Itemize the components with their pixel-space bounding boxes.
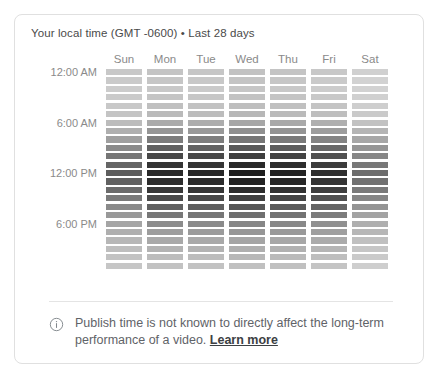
heatmap-cell[interactable] [147, 77, 183, 83]
heatmap-cell[interactable] [311, 94, 347, 100]
heatmap-cell[interactable] [352, 263, 388, 269]
heatmap-cell[interactable] [270, 136, 306, 142]
heatmap-cell[interactable] [270, 178, 306, 184]
heatmap-cell[interactable] [311, 212, 347, 218]
heatmap-cell[interactable] [352, 170, 388, 176]
heatmap-cell[interactable] [311, 69, 347, 75]
heatmap-cell[interactable] [147, 195, 183, 201]
heatmap-cell[interactable] [270, 170, 306, 176]
heatmap-cell[interactable] [270, 77, 306, 83]
heatmap-cell[interactable] [188, 136, 224, 142]
heatmap-cell[interactable] [106, 128, 142, 134]
heatmap-cell[interactable] [270, 94, 306, 100]
heatmap-cell[interactable] [229, 187, 265, 193]
heatmap-cell[interactable] [147, 145, 183, 151]
heatmap-cell[interactable] [229, 212, 265, 218]
heatmap-cell[interactable] [188, 204, 224, 210]
heatmap-cell[interactable] [352, 187, 388, 193]
heatmap-cell[interactable] [147, 246, 183, 252]
heatmap-cell[interactable] [106, 77, 142, 83]
heatmap-cell[interactable] [270, 162, 306, 168]
heatmap-cell[interactable] [106, 178, 142, 184]
heatmap-cell[interactable] [106, 120, 142, 126]
heatmap-cell[interactable] [106, 69, 142, 75]
heatmap-cell[interactable] [352, 86, 388, 92]
heatmap-cell[interactable] [270, 204, 306, 210]
heatmap-cell[interactable] [188, 254, 224, 260]
heatmap-cell[interactable] [311, 221, 347, 227]
heatmap-cell[interactable] [352, 229, 388, 235]
heatmap-cell[interactable] [352, 153, 388, 159]
heatmap-cell[interactable] [352, 145, 388, 151]
heatmap-cell[interactable] [352, 162, 388, 168]
heatmap-cell[interactable] [106, 237, 142, 243]
heatmap-cell[interactable] [147, 111, 183, 117]
heatmap-cell[interactable] [188, 128, 224, 134]
heatmap-cell[interactable] [352, 246, 388, 252]
heatmap-cell[interactable] [188, 195, 224, 201]
heatmap-cell[interactable] [106, 212, 142, 218]
heatmap-cell[interactable] [311, 204, 347, 210]
heatmap-cell[interactable] [270, 212, 306, 218]
heatmap-cell[interactable] [311, 254, 347, 260]
heatmap-cell[interactable] [352, 204, 388, 210]
heatmap-cell[interactable] [229, 69, 265, 75]
heatmap-cell[interactable] [311, 128, 347, 134]
heatmap-cell[interactable] [270, 246, 306, 252]
heatmap-cell[interactable] [352, 120, 388, 126]
heatmap-cell[interactable] [270, 86, 306, 92]
heatmap-cell[interactable] [106, 187, 142, 193]
heatmap-cell[interactable] [270, 111, 306, 117]
heatmap-cell[interactable] [106, 111, 142, 117]
heatmap-cell[interactable] [106, 145, 142, 151]
heatmap-cell[interactable] [270, 103, 306, 109]
heatmap-cell[interactable] [147, 229, 183, 235]
heatmap-cell[interactable] [270, 69, 306, 75]
heatmap-cell[interactable] [188, 120, 224, 126]
heatmap-cell[interactable] [147, 187, 183, 193]
heatmap-cell[interactable] [106, 204, 142, 210]
heatmap-cell[interactable] [311, 246, 347, 252]
heatmap-cell[interactable] [229, 170, 265, 176]
heatmap-cell[interactable] [229, 263, 265, 269]
heatmap-cell[interactable] [229, 103, 265, 109]
heatmap-cell[interactable] [352, 77, 388, 83]
heatmap-cell[interactable] [229, 94, 265, 100]
heatmap-cell[interactable] [352, 237, 388, 243]
heatmap-cell[interactable] [106, 229, 142, 235]
heatmap-cell[interactable] [311, 153, 347, 159]
heatmap-cell[interactable] [229, 237, 265, 243]
heatmap-cell[interactable] [229, 229, 265, 235]
heatmap-cell[interactable] [311, 77, 347, 83]
heatmap-cell[interactable] [352, 212, 388, 218]
heatmap-cell[interactable] [229, 128, 265, 134]
heatmap-cell[interactable] [106, 162, 142, 168]
heatmap-cell[interactable] [270, 237, 306, 243]
heatmap-cell[interactable] [106, 94, 142, 100]
heatmap-cell[interactable] [229, 178, 265, 184]
heatmap-cell[interactable] [188, 145, 224, 151]
heatmap-cell[interactable] [106, 246, 142, 252]
heatmap-cell[interactable] [270, 254, 306, 260]
heatmap-cell[interactable] [147, 94, 183, 100]
heatmap-cell[interactable] [270, 263, 306, 269]
heatmap-cell[interactable] [311, 145, 347, 151]
heatmap-cell[interactable] [147, 153, 183, 159]
heatmap-cell[interactable] [188, 212, 224, 218]
heatmap-cell[interactable] [147, 237, 183, 243]
heatmap-cell[interactable] [229, 162, 265, 168]
heatmap-cell[interactable] [270, 120, 306, 126]
heatmap-cell[interactable] [188, 263, 224, 269]
heatmap-cell[interactable] [188, 111, 224, 117]
heatmap-cell[interactable] [352, 221, 388, 227]
heatmap-cell[interactable] [270, 221, 306, 227]
heatmap-cell[interactable] [188, 187, 224, 193]
heatmap-cell[interactable] [188, 237, 224, 243]
heatmap-cell[interactable] [188, 178, 224, 184]
heatmap-cell[interactable] [188, 77, 224, 83]
heatmap-cell[interactable] [311, 187, 347, 193]
heatmap-cell[interactable] [147, 212, 183, 218]
heatmap-cell[interactable] [352, 136, 388, 142]
heatmap-cell[interactable] [270, 145, 306, 151]
heatmap-cell[interactable] [106, 263, 142, 269]
